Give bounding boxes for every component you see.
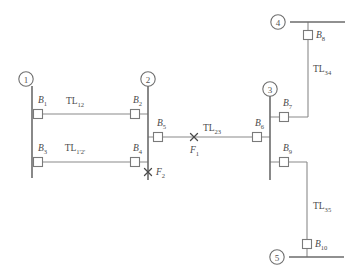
bus-group	[32, 22, 345, 257]
fault-label-F2: F2	[155, 167, 165, 178]
breaker-label-B1: B1	[38, 95, 47, 106]
breaker-label-B8: B8	[316, 30, 326, 41]
schematic-canvas: 1 2 3 4 5	[0, 0, 350, 277]
node-label-3: 3	[268, 85, 273, 95]
power-system-diagram: 1 2 3 4 5	[0, 0, 350, 277]
line-label-TL12: TL12	[66, 96, 84, 107]
node-marker-4: 4	[271, 15, 285, 29]
breaker-B3[interactable]	[34, 158, 43, 167]
breaker-B2[interactable]	[131, 110, 140, 119]
breaker-B1[interactable]	[34, 110, 43, 119]
transmission-line-label-group: TL12 TL1'2' TL23 TL34 TL35	[65, 64, 332, 212]
breaker-label-B4: B4	[133, 143, 143, 154]
breaker-label-group: B1 B2 B3 B4 B5 B6 B7 B8 B9 B10	[38, 30, 328, 250]
node-marker-2: 2	[141, 72, 155, 86]
node-label-5: 5	[275, 253, 280, 263]
line-label-TL1p2p: TL1'2'	[65, 143, 86, 154]
breaker-label-B2: B2	[133, 95, 142, 106]
node-label-4: 4	[276, 18, 281, 28]
line-label-TL35: TL35	[313, 201, 332, 212]
breaker-label-B5: B5	[157, 118, 167, 129]
breaker-label-B6: B6	[255, 118, 265, 129]
conductor-group	[38, 22, 308, 257]
node-marker-1: 1	[19, 72, 33, 86]
fault-group: F1 F2	[145, 134, 200, 179]
breaker-B6[interactable]	[253, 133, 262, 142]
node-marker-3: 3	[263, 82, 277, 96]
breaker-label-B9: B9	[283, 143, 293, 154]
line-label-TL34: TL34	[313, 64, 332, 75]
node-marker-group: 1 2 3 4 5	[19, 15, 285, 264]
node-label-1: 1	[24, 75, 29, 85]
breaker-B10[interactable]	[303, 240, 312, 249]
breaker-B9[interactable]	[280, 158, 289, 167]
node-marker-5: 5	[270, 250, 284, 264]
breaker-label-B7: B7	[283, 98, 293, 109]
breaker-B5[interactable]	[154, 133, 163, 142]
breaker-B7[interactable]	[280, 113, 289, 122]
line-label-TL23: TL23	[203, 123, 222, 134]
breaker-B4[interactable]	[131, 158, 140, 167]
breaker-label-B3: B3	[38, 143, 48, 154]
fault-label-F1: F1	[189, 145, 199, 156]
node-label-2: 2	[146, 75, 151, 85]
breaker-label-B10: B10	[315, 239, 328, 250]
breaker-B8[interactable]	[304, 31, 313, 40]
